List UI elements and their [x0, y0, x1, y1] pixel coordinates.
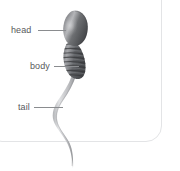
leader-line-head: [38, 30, 66, 31]
leader-line-body: [54, 66, 79, 67]
sperm-body: [60, 42, 88, 79]
leader-line-tail: [34, 107, 63, 108]
label-tail: tail: [18, 102, 30, 112]
label-head: head: [11, 25, 31, 35]
diagram-canvas: head body tail: [0, 0, 180, 171]
sperm-head: [63, 11, 88, 47]
label-body: body: [30, 61, 50, 71]
sperm-tail: [53, 73, 77, 169]
